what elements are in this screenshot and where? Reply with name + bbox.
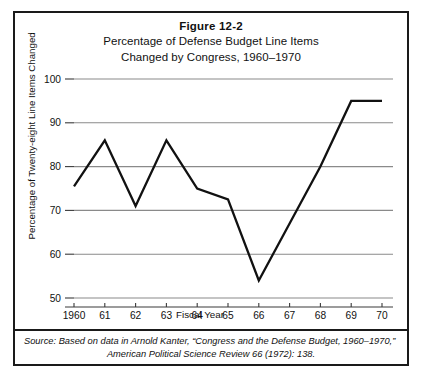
x-tick-marks-group	[74, 303, 382, 307]
y-tick-marks-group	[65, 79, 74, 298]
source-text-1: Based on data in Arnold Kanter, “Congres…	[59, 336, 396, 346]
y-tick-label: 80	[50, 161, 62, 172]
source-text-2: American Political Science Review 66 (19…	[24, 348, 398, 361]
x-axis-title: Fiscal Year	[15, 309, 385, 320]
line-chart: 5060708090100 196061626364656667686970	[15, 13, 411, 331]
y-tick-label: 100	[44, 74, 61, 85]
figure-container: Figure 12-2 Percentage of Defense Budget…	[13, 11, 409, 366]
source-block: Source: Based on data in Arnold Kanter, …	[15, 335, 407, 360]
source-line-1: Source: Based on data in Arnold Kanter, …	[24, 335, 398, 348]
data-series-line	[74, 101, 382, 281]
data-series-line-group	[74, 101, 382, 281]
y-tick-label: 90	[50, 117, 62, 128]
y-tick-label: 70	[50, 205, 62, 216]
y-tick-labels-group: 5060708090100	[44, 74, 61, 304]
source-label: Source:	[24, 336, 56, 346]
y-axis-title: Percentage of Twenty-eight Line Items Ch…	[26, 40, 37, 240]
y-tick-label: 60	[50, 249, 62, 260]
plot-region: 5060708090100 196061626364656667686970 P…	[15, 13, 411, 331]
source-divider	[15, 329, 407, 331]
y-tick-label: 50	[50, 293, 62, 304]
